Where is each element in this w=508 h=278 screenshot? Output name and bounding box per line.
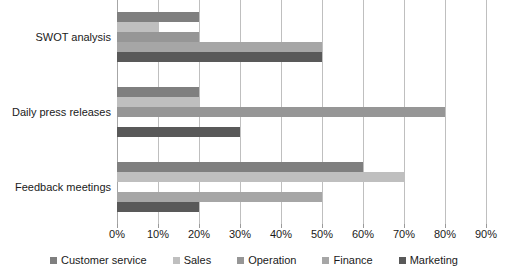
bar	[117, 42, 322, 52]
category-label: Feedback meetings	[0, 181, 111, 193]
bar	[117, 162, 363, 172]
bar	[117, 202, 199, 212]
legend-item[interactable]: Sales	[173, 254, 212, 266]
x-tick-label: 30%	[220, 228, 260, 241]
legend-label: Customer service	[61, 254, 147, 266]
legend-swatch-icon	[237, 257, 244, 264]
x-tick-label: 0%	[97, 228, 137, 241]
x-tick-label: 90%	[466, 228, 506, 241]
bar	[117, 107, 445, 117]
x-tick-label: 10%	[138, 228, 178, 241]
gridline	[486, 0, 487, 224]
category-axis-labels: SWOT analysisDaily press releasesFeedbac…	[0, 0, 111, 224]
bar	[117, 97, 199, 107]
bar	[117, 12, 199, 22]
legend-label: Marketing	[410, 254, 458, 266]
legend-item[interactable]: Marketing	[399, 254, 458, 266]
legend-label: Sales	[184, 254, 212, 266]
x-tick-label: 40%	[261, 228, 301, 241]
x-tick-label: 50%	[302, 228, 342, 241]
bar	[117, 127, 240, 137]
x-tick-label: 70%	[384, 228, 424, 241]
x-tick-label: 20%	[179, 228, 219, 241]
legend-item[interactable]: Finance	[322, 254, 372, 266]
bar	[117, 52, 322, 62]
legend-swatch-icon	[173, 257, 180, 264]
legend-item[interactable]: Operation	[237, 254, 296, 266]
category-label: SWOT analysis	[0, 31, 111, 43]
x-tick-label: 60%	[343, 228, 383, 241]
bar-chart: SWOT analysisDaily press releasesFeedbac…	[0, 0, 508, 278]
plot-area	[117, 0, 486, 224]
x-axis-tick-labels: 0%10%20%30%40%50%60%70%80%90%	[117, 228, 486, 244]
bar	[117, 22, 158, 32]
x-tick-label: 80%	[425, 228, 465, 241]
legend-swatch-icon	[50, 257, 57, 264]
legend-label: Operation	[248, 254, 296, 266]
figure-caption	[2, 269, 382, 278]
bar	[117, 87, 199, 97]
legend-swatch-icon	[322, 257, 329, 264]
legend-swatch-icon	[399, 257, 406, 264]
legend-item[interactable]: Customer service	[50, 254, 147, 266]
chart-legend: Customer serviceSalesOperationFinanceMar…	[0, 252, 508, 268]
bar	[117, 172, 404, 182]
legend-label: Finance	[333, 254, 372, 266]
gridline	[445, 0, 446, 224]
bar	[117, 192, 322, 202]
category-label: Daily press releases	[0, 106, 111, 118]
bar	[117, 32, 199, 42]
